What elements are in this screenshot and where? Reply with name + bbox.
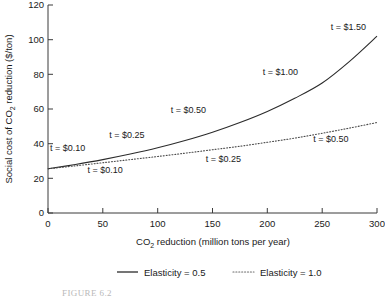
figure-container: 0 20 40 60 80 100 120 Social cost of CO2… [0, 0, 385, 299]
x-tick-label-250: 250 [314, 218, 330, 229]
series-line-elasticity-0-5 [48, 36, 377, 169]
chart-canvas: 0 20 40 60 80 100 120 Social cost of CO2… [0, 0, 385, 299]
figure-caption: FIGURE 6.2 [62, 288, 112, 298]
chart-legend: Elasticity = 0.5 Elasticity = 1.0 [117, 267, 322, 278]
y-tick-label-120: 120 [28, 0, 44, 10]
curve-annotation-3: t = $1.00 [263, 67, 298, 77]
svg-text:CO2 reduction (million tons pe: CO2 reduction (million tons per year) [136, 236, 290, 249]
curve-annotation-0: t = $0.10 [50, 143, 85, 153]
x-axis-title: CO2 reduction (million tons per year) [136, 236, 290, 249]
y-tick-label-80: 80 [33, 69, 44, 80]
x-tick-label-0: 0 [45, 218, 50, 229]
x-axis-title-main: CO [136, 236, 150, 247]
svg-text:Social cost of CO2 reduction (: Social cost of CO2 reduction ($/ton) [3, 34, 16, 183]
x-axis-title-rest: reduction (million tons per year) [154, 236, 290, 247]
x-tick-label-50: 50 [98, 218, 109, 229]
legend-label-elasticity-1-0: Elasticity = 1.0 [260, 267, 322, 278]
x-tick-label-150: 150 [205, 218, 221, 229]
legend-label-elasticity-0-5: Elasticity = 0.5 [144, 267, 206, 278]
curve-annotation-2: t = $0.50 [171, 105, 206, 115]
y-axis-title: Social cost of CO2 reduction ($/ton) [3, 34, 16, 183]
y-tick-label-0: 0 [39, 207, 44, 218]
x-tick-label-200: 200 [259, 218, 275, 229]
curve-annotation-1: t = $0.25 [109, 130, 144, 140]
y-tick-label-60: 60 [33, 103, 44, 114]
curve-annotation-7: t = $0.50 [313, 134, 348, 144]
x-tick-label-100: 100 [150, 218, 166, 229]
y-tick-label-100: 100 [28, 34, 44, 45]
figure-caption-text: FIGURE 6.2 [62, 288, 112, 298]
x-axis: 0 50 100 150 200 250 300 [45, 208, 385, 229]
y-axis: 0 20 40 60 80 100 120 [28, 0, 53, 218]
y-tick-label-20: 20 [33, 173, 44, 184]
y-tick-label-40: 40 [33, 138, 44, 149]
y-axis-title-main: Social cost of CO [3, 110, 14, 183]
curve-annotation-6: t = $0.25 [206, 154, 241, 164]
x-tick-label-300: 300 [369, 218, 385, 229]
curve-annotation-5: t = $0.10 [87, 165, 122, 175]
curve-annotation-4: t = $1.50 [331, 22, 366, 32]
curve-annotations: t = $0.10t = $0.25t = $0.50t = $1.00t = … [50, 22, 366, 175]
y-axis-title-rest: reduction ($/ton) [3, 34, 14, 106]
